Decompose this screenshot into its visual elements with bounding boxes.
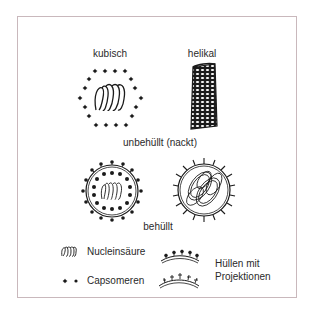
virus-morphology-illustration [0,0,311,316]
envelope-spike-legend-icon [159,273,199,288]
legend-nucleic-acid-label: Nucleinsäure [87,246,145,258]
label-cubic: kubisch [93,48,127,60]
helical-virus-icon [191,64,217,129]
label-enveloped: behüllt [143,221,172,233]
legend-capsomeres-label: Capsomeren [87,275,144,287]
legend-envelopes-line1: Hüllen mit [215,258,259,270]
cubic-virus-icon [77,68,143,127]
enveloped-helical-virus-icon [173,158,235,222]
nucleic-acid-legend-icon [62,247,77,256]
label-helical: helikal [188,48,216,60]
label-non-enveloped: unbehüllt (nackt) [123,137,197,149]
legend-envelopes-line2: Projektionen [215,271,271,283]
capsomere-legend-icon [62,278,77,283]
envelope-knob-legend-icon [161,250,199,263]
enveloped-cubic-virus-icon [81,160,143,222]
